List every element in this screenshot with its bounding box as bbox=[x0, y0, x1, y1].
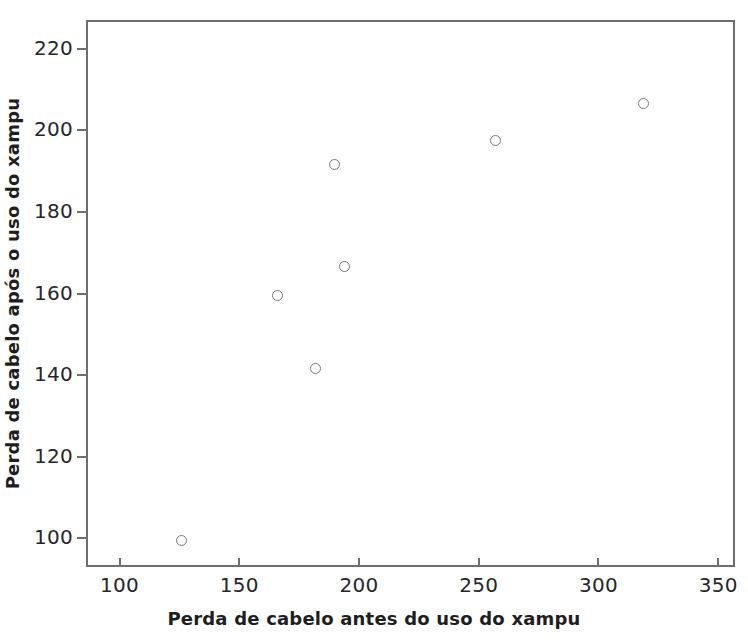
y-tick-mark bbox=[77, 293, 86, 295]
x-tick-mark bbox=[717, 558, 719, 567]
x-tick-label: 200 bbox=[339, 573, 378, 597]
y-tick-label: 140 bbox=[34, 362, 73, 386]
y-tick-label: 220 bbox=[34, 36, 73, 60]
x-tick-mark bbox=[119, 558, 121, 567]
y-tick-mark bbox=[77, 374, 86, 376]
y-tick-mark bbox=[77, 211, 86, 213]
data-point bbox=[272, 290, 283, 301]
x-tick-label: 150 bbox=[220, 573, 259, 597]
y-tick-label: 200 bbox=[34, 117, 73, 141]
plot-frame bbox=[86, 20, 735, 567]
y-tick-mark bbox=[77, 537, 86, 539]
y-tick-mark bbox=[77, 456, 86, 458]
y-tick-label: 120 bbox=[34, 444, 73, 468]
x-tick-mark bbox=[478, 558, 480, 567]
data-point bbox=[339, 261, 350, 272]
y-tick-label: 160 bbox=[34, 281, 73, 305]
x-tick-label: 350 bbox=[699, 573, 738, 597]
x-tick-label: 250 bbox=[459, 573, 498, 597]
x-tick-mark bbox=[358, 558, 360, 567]
y-axis-title: Perda de cabelo após o uso do xampu bbox=[2, 20, 32, 567]
y-tick-label: 180 bbox=[34, 199, 73, 223]
data-point bbox=[490, 135, 501, 146]
x-tick-mark bbox=[238, 558, 240, 567]
plot-data-area bbox=[88, 22, 733, 565]
data-point bbox=[310, 363, 321, 374]
y-tick-label: 100 bbox=[34, 525, 73, 549]
data-point bbox=[638, 98, 649, 109]
x-tick-label: 300 bbox=[579, 573, 618, 597]
x-axis-title: Perda de cabelo antes do uso do xampu bbox=[0, 608, 748, 629]
y-tick-mark bbox=[77, 48, 86, 50]
data-point bbox=[176, 535, 187, 546]
x-tick-label: 100 bbox=[100, 573, 139, 597]
x-tick-mark bbox=[597, 558, 599, 567]
scatter-plot-figure: 100120140160180200220 100150200250300350… bbox=[0, 0, 748, 642]
data-point bbox=[329, 159, 340, 170]
y-tick-mark bbox=[77, 129, 86, 131]
